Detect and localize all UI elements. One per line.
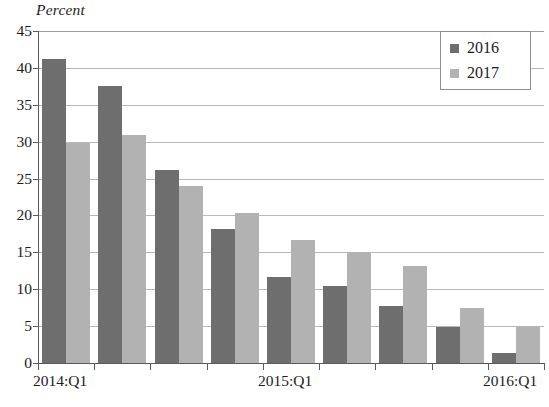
bar — [323, 286, 347, 363]
legend-item-label: 2017 — [467, 65, 499, 81]
bar — [267, 277, 291, 363]
x-tick-label: 2016:Q1 — [483, 372, 537, 390]
y-tick-mark — [33, 179, 39, 180]
x-tick-mark — [94, 364, 95, 370]
x-tick-mark — [319, 364, 320, 370]
x-tick-mark — [544, 364, 545, 370]
y-tick-label: 0 — [6, 355, 32, 371]
bar — [460, 308, 484, 363]
y-tick-mark — [33, 326, 39, 327]
x-tick-label: 2014:Q1 — [33, 372, 87, 390]
x-tick-mark — [488, 364, 489, 370]
y-tick-label: 45 — [6, 23, 32, 39]
bar — [42, 59, 66, 363]
x-tick-mark — [207, 364, 208, 370]
x-tick-mark — [375, 364, 376, 370]
bar — [155, 170, 179, 363]
y-axis-title: Percent — [36, 1, 85, 19]
y-tick-label: 10 — [6, 281, 32, 297]
y-tick-label: 5 — [6, 318, 32, 334]
bar — [122, 135, 146, 363]
y-tick-label: 30 — [6, 134, 32, 150]
bar-chart: Percent 051015202530354045 2014:Q12015:Q… — [0, 0, 549, 407]
bar — [235, 213, 259, 363]
y-tick-label: 25 — [6, 171, 32, 187]
y-tick-mark — [33, 68, 39, 69]
x-tick-mark — [432, 364, 433, 370]
y-tick-label: 15 — [6, 244, 32, 260]
bar — [379, 306, 403, 363]
y-tick-mark — [33, 252, 39, 253]
x-axis-line — [38, 363, 545, 364]
bar — [492, 353, 516, 363]
bar — [179, 186, 203, 363]
y-tick-label: 35 — [6, 97, 32, 113]
legend-item-2017: 2017 — [450, 61, 499, 85]
legend-item-label: 2016 — [467, 40, 499, 56]
y-axis-line — [38, 31, 39, 364]
bar — [403, 266, 427, 363]
y-tick-mark — [33, 142, 39, 143]
legend-swatch-icon — [450, 69, 459, 78]
y-tick-mark — [33, 215, 39, 216]
y-tick-label: 40 — [6, 60, 32, 76]
chart-legend: 2016 2017 — [440, 31, 531, 90]
bar — [436, 327, 460, 363]
y-tick-mark — [33, 105, 39, 106]
bar — [211, 229, 235, 363]
bar — [98, 86, 122, 363]
bar — [66, 143, 90, 363]
x-tick-mark — [263, 364, 264, 370]
y-tick-mark — [33, 31, 39, 32]
x-tick-mark — [150, 364, 151, 370]
legend-swatch-icon — [450, 44, 459, 53]
legend-item-2016: 2016 — [450, 36, 499, 60]
y-tick-label: 20 — [6, 207, 32, 223]
bar — [516, 327, 540, 363]
y-tick-mark — [33, 289, 39, 290]
bar — [347, 252, 371, 363]
x-tick-label: 2015:Q1 — [258, 372, 312, 390]
bar — [291, 240, 315, 363]
x-tick-mark — [38, 364, 39, 370]
